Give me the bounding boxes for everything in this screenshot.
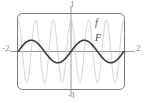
y-axis-min-label: -1 [68,91,76,100]
plot-canvas [0,0,145,103]
curve-f-label: f [95,18,98,28]
curve-F-label: F [95,33,101,43]
figure-container: -2 2 1 -1 f F [0,0,145,103]
x-axis-max-label: 2 [136,44,141,53]
y-axis-max-label: 1 [70,0,75,9]
x-axis-min-label: -2 [2,44,10,53]
